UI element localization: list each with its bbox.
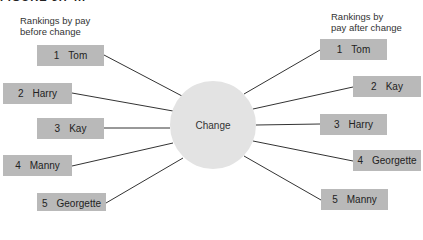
person-name: Manny — [30, 160, 60, 171]
connector-after-5 — [244, 156, 321, 200]
person-name: Georgette — [57, 198, 101, 209]
person-name: Manny — [347, 194, 377, 205]
connector-after-4 — [253, 141, 353, 161]
before-rank-2: 2 Harry — [3, 83, 72, 104]
after-rank-2: 2 Kay — [353, 76, 421, 97]
before-rank-3: 3 Kay — [37, 118, 104, 139]
connector-before-1 — [104, 55, 182, 96]
connector-after-3 — [256, 124, 320, 125]
person-name: Tom — [351, 44, 370, 55]
connector-before-4 — [72, 143, 173, 166]
change-label: Change — [195, 120, 230, 131]
after-rank-1: 1 Tom — [320, 39, 387, 60]
rank-number: 4 — [15, 160, 21, 171]
after-rank-5: 5 Manny — [321, 189, 388, 210]
before-rank-1: 1 Tom — [37, 45, 104, 66]
person-name: Tom — [68, 50, 87, 61]
rank-number: 5 — [42, 198, 48, 209]
after-rank-4: 4 Georgette — [353, 150, 421, 171]
connector-after-2 — [253, 87, 353, 109]
person-name: Kay — [386, 81, 403, 92]
after-rank-3: 3 Harry — [320, 114, 387, 135]
rank-number: 2 — [371, 81, 377, 92]
rank-number: 3 — [334, 119, 340, 130]
person-name: Harry — [349, 119, 373, 130]
rank-number: 2 — [18, 88, 24, 99]
connector-before-5 — [106, 158, 183, 203]
before-rank-4: 4 Manny — [3, 155, 72, 176]
before-rank-5: 5 Georgette — [37, 193, 106, 211]
rank-number: 4 — [357, 155, 363, 166]
connector-before-2 — [72, 93, 173, 111]
rank-number: 1 — [337, 44, 343, 55]
person-name: Kay — [69, 123, 86, 134]
person-name: Georgette — [372, 155, 416, 166]
change-circle: Change — [170, 81, 256, 169]
rank-number: 3 — [55, 123, 61, 134]
connector-after-1 — [244, 50, 320, 94]
person-name: Harry — [33, 88, 57, 99]
rank-number: 1 — [54, 50, 60, 61]
rank-number: 5 — [332, 194, 338, 205]
